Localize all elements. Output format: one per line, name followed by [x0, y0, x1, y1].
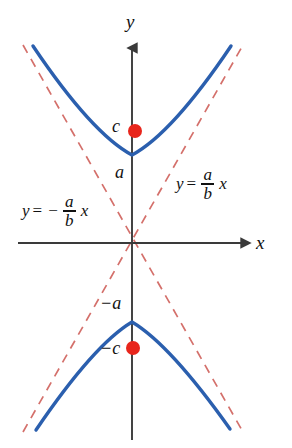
asymptote-right-lhs: y — [176, 174, 184, 194]
lower-branch-curve — [36, 322, 230, 430]
focus-lower-label: −c — [100, 339, 120, 357]
asymptote-right-fraction: a b — [201, 166, 214, 202]
focus-upper-point — [128, 124, 142, 138]
asymptote-left-fraction: a b — [63, 193, 76, 229]
vertex-upper-label: a — [115, 163, 124, 181]
asymptote-right-variable: x — [219, 174, 227, 194]
asymptote-left-equals: = — [33, 201, 43, 221]
asymptote-left-numerator: a — [63, 193, 76, 210]
asymptote-left-lhs: y — [22, 201, 30, 221]
asymptote-right-denominator: b — [201, 185, 214, 202]
asymptote-equation-left: y = − a b x — [22, 193, 88, 229]
asymptote-right-numerator: a — [201, 166, 214, 183]
y-axis-label: y — [126, 12, 134, 31]
focus-lower-point — [126, 341, 140, 355]
focus-upper-label: c — [112, 117, 120, 135]
x-axis-label: x — [256, 233, 264, 252]
asymptote-left-variable: x — [81, 201, 89, 221]
asymptote-left-sign: − — [48, 201, 58, 221]
asymptote-equation-right: y = a b x — [176, 166, 227, 202]
asymptote-right-equals: = — [187, 174, 197, 194]
vertex-lower-label: −a — [100, 294, 121, 312]
hyperbola-figure: y x c a −a −c y = a b x y = − a b x — [0, 0, 292, 448]
asymptote-left-denominator: b — [63, 212, 76, 229]
